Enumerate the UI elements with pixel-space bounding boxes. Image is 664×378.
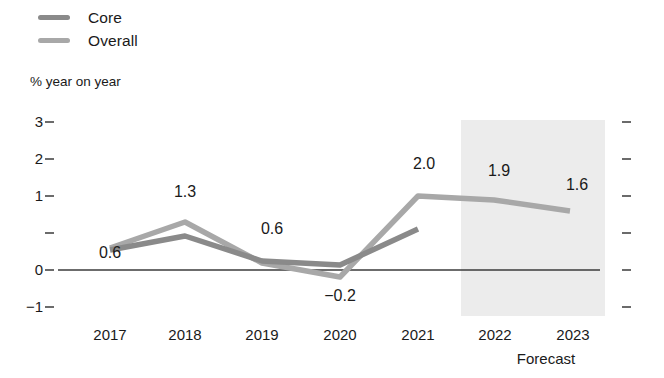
- data-label-2021: 2.0: [413, 155, 435, 172]
- x-axis-label-2019: 2019: [245, 326, 278, 343]
- y-axis-label-1: 1: [35, 187, 43, 204]
- data-label-2018: 1.3: [174, 183, 196, 200]
- data-label-2023: 1.6: [566, 176, 588, 193]
- data-label-2022: 1.9: [488, 162, 510, 179]
- x-axis-label-2017: 2017: [93, 326, 126, 343]
- forecast-shaded-band: [461, 120, 605, 316]
- y-axis-label-minus-1: −1: [26, 298, 43, 315]
- x-axis-label-2021: 2021: [401, 326, 434, 343]
- data-label-2017: 0.6: [99, 244, 121, 261]
- y-axis-label-2: 2: [35, 150, 43, 167]
- chart-container: Core Overall % year on year 3 2 1 0 −1: [0, 0, 664, 378]
- x-axis-label-2022: 2022: [478, 326, 511, 343]
- y-axis-label-0: 0: [35, 261, 43, 278]
- data-label-2019: 0.6: [261, 220, 283, 237]
- x-axis-label-2020: 2020: [323, 326, 356, 343]
- x-axis-label-2023: 2023: [556, 326, 589, 343]
- data-label-2020: −0.2: [324, 287, 356, 304]
- x-axis-label-2018: 2018: [168, 326, 201, 343]
- y-axis-label-3: 3: [35, 113, 43, 130]
- forecast-caption: Forecast: [517, 350, 576, 367]
- chart-plot: 3 2 1 0 −1 0.6 1.3 0.6 −0.2 2.0 1.9 1.6 …: [0, 0, 664, 378]
